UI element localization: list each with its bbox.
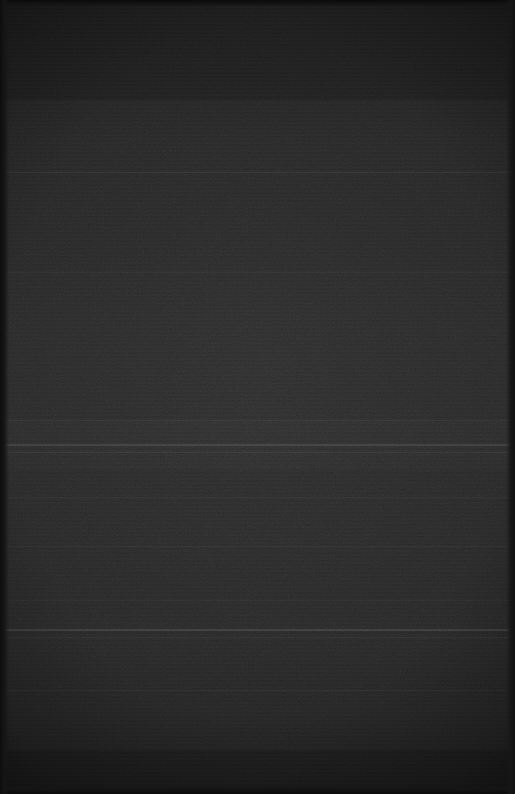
hairline-497	[0, 497, 515, 498]
upper-mid-band	[0, 100, 515, 172]
bright-mid-band	[0, 420, 515, 470]
grain-texture	[0, 0, 515, 794]
luminance-band-group	[0, 0, 515, 794]
edge-shade-top	[0, 0, 515, 7]
edge-shade-left	[0, 0, 9, 794]
edge-shade-right	[506, 0, 515, 794]
hairline-172	[0, 172, 515, 173]
hairline-629	[0, 629, 515, 631]
top-shadow-band	[0, 0, 515, 100]
center-band	[0, 272, 515, 420]
edge-shade-bottom	[0, 785, 515, 794]
scanline-texture	[0, 0, 515, 794]
hairline-690	[0, 690, 515, 691]
hairline-637	[0, 637, 515, 638]
hairline-420	[0, 420, 515, 421]
dark-frame: Dark frame — no discernible text, icons …	[0, 0, 515, 794]
hairline-600	[0, 600, 515, 601]
hairline-group	[0, 0, 515, 794]
luminance-gradient	[0, 0, 515, 794]
lower-mid-band	[0, 470, 515, 628]
hairline-272	[0, 272, 515, 273]
hairline-546	[0, 546, 515, 547]
mid-band	[0, 172, 515, 272]
lower-band	[0, 630, 515, 750]
hairline-452	[0, 452, 515, 453]
vignette-overlay	[0, 0, 515, 794]
hairline-444	[0, 444, 515, 446]
